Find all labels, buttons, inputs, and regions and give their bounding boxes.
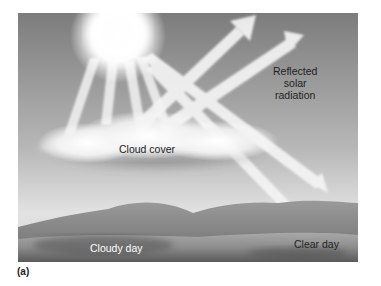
- cloudy-day-label: Cloudy day: [90, 242, 143, 254]
- solar-radiation-illustration: [18, 13, 358, 262]
- label-line: radiation: [273, 89, 317, 101]
- diagram-panel: Reflected solar radiation Cloud cover Cl…: [18, 13, 358, 262]
- cloud-cover-label: Cloud cover: [119, 143, 175, 155]
- label-line: Reflected: [273, 65, 317, 77]
- label-line: solar: [273, 77, 317, 89]
- panel-label: (a): [17, 266, 29, 277]
- reflected-solar-radiation-label: Reflected solar radiation: [273, 65, 317, 101]
- clear-day-label: Clear day: [294, 238, 339, 250]
